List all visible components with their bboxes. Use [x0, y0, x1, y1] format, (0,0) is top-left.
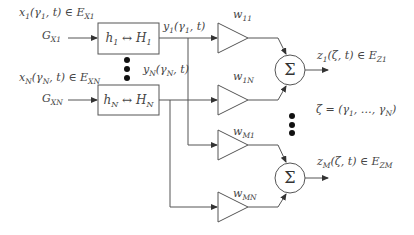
summer-m-sigma: Σ	[275, 163, 305, 193]
block-output-n-label: yN(γN, t)	[143, 64, 189, 80]
output-m-label: zM(ζ, t) ∈ EZM	[317, 156, 393, 172]
input-signal-n-label: xN(γN, t) ∈ EXN	[19, 72, 100, 88]
input-prior-1-label: GX1	[42, 30, 61, 46]
weight-triangle-11	[218, 23, 248, 53]
weight-1n-label: w1N	[233, 71, 254, 87]
block-n-label: hN ↔ HN	[98, 85, 159, 120]
weight-m1-label: wM1	[233, 126, 255, 142]
block-output-1-label: y1(γ1, t)	[163, 21, 205, 37]
block-1-label: h1 ↔ H1	[98, 23, 159, 58]
output-1-label: z1(ζ, t) ∈ EZ1	[317, 50, 387, 66]
input-prior-n-label: GXN	[42, 93, 63, 109]
zeta-definition: ζ = (γ1, …, γN)	[316, 104, 396, 120]
weight-11-label: w11	[233, 9, 252, 25]
weight-triangle-1n	[218, 85, 248, 115]
neural-network-diagram: x1(γ1, t) ∈ EX1 GX1 xN(γN, t) ∈ EXN GXN …	[0, 0, 414, 235]
input-signal-1-label: x1(γ1, t) ∈ EX1	[19, 7, 95, 23]
summer-1-sigma: Σ	[275, 55, 305, 85]
weight-mn-label: wMN	[233, 188, 257, 204]
